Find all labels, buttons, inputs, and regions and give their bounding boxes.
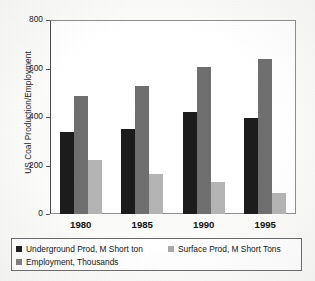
bar[interactable] [244, 118, 258, 214]
legend-item-surface: Surface Prod, M Short Tons [168, 244, 281, 254]
bar[interactable] [74, 96, 88, 214]
y-axis-tick: 600 [0, 69, 50, 70]
legend-swatch-employment-icon [16, 259, 22, 265]
plot-area [50, 20, 296, 214]
bar-group [173, 20, 235, 214]
bar[interactable] [121, 129, 135, 214]
bar[interactable] [258, 59, 272, 214]
bar-group [50, 20, 112, 214]
y-axis-tick-label: 0 [38, 208, 43, 218]
chart-legend: Underground Prod, M Short ton Surface Pr… [11, 238, 302, 271]
y-axis-tick-mark [46, 214, 50, 215]
bar[interactable] [88, 160, 102, 214]
bar-chart: US Coal Production/Employment 0200400600… [0, 0, 315, 281]
x-axis-tick-label: 1985 [114, 219, 170, 230]
bar[interactable] [135, 86, 149, 214]
legend-label-employment: Employment, Thousands [26, 257, 119, 267]
bar-group [235, 20, 297, 214]
y-axis-tick: 400 [0, 117, 50, 118]
bar[interactable] [60, 132, 74, 214]
y-axis-tick-label: 200 [29, 160, 43, 170]
bar[interactable] [211, 182, 225, 214]
legend-label-underground: Underground Prod, M Short ton [26, 244, 143, 254]
legend-row: Underground Prod, M Short ton Surface Pr… [16, 242, 301, 255]
bar[interactable] [272, 193, 286, 214]
x-axis-tick-label: 1980 [53, 219, 109, 230]
y-axis-tick: 0 [0, 214, 50, 215]
x-axis-tick-label: 1990 [176, 219, 232, 230]
x-axis-tick-label: 1995 [237, 219, 293, 230]
legend-swatch-underground-icon [16, 246, 22, 252]
y-axis-tick-label: 400 [29, 111, 43, 121]
y-axis-tick: 800 [0, 20, 50, 21]
bar[interactable] [149, 174, 163, 214]
bar[interactable] [197, 67, 211, 214]
legend-swatch-surface-icon [168, 246, 174, 252]
legend-row: Employment, Thousands [16, 255, 301, 268]
y-axis-tick-label: 600 [29, 63, 43, 73]
legend-label-surface: Surface Prod, M Short Tons [178, 244, 281, 254]
legend-item-employment: Employment, Thousands [16, 257, 119, 267]
y-axis-tick-label: 800 [29, 14, 43, 24]
bar-group [112, 20, 174, 214]
bar[interactable] [183, 112, 197, 214]
legend-item-underground: Underground Prod, M Short ton [16, 244, 168, 254]
y-axis-tick: 200 [0, 166, 50, 167]
